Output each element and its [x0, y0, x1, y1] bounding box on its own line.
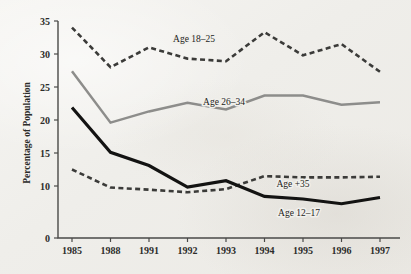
y-tick-label: 30: [40, 49, 50, 60]
x-tick-label: 1988: [101, 245, 121, 256]
y-tick-label: 15: [40, 148, 50, 159]
x-tick-label: 1995: [293, 245, 313, 256]
x-tick-label: 1993: [216, 245, 236, 256]
series-line-age-12-17: [72, 107, 380, 203]
x-tick-label: 1994: [255, 245, 275, 256]
series-label: Age 12–17: [278, 208, 320, 218]
series-line-age-18-25: [72, 28, 380, 72]
axis-lines: [58, 21, 400, 238]
y-axis-title-group: Percentage of Population: [22, 81, 32, 183]
y-axis-ticks: 0101520253035: [40, 16, 58, 244]
x-tick-label: 1991: [139, 245, 159, 256]
y-tick-label: 25: [40, 82, 50, 93]
y-tick-label: 35: [40, 16, 50, 27]
x-tick-label: 1985: [62, 245, 82, 256]
line-chart: Percentage of Population 0101520253035 1…: [0, 0, 411, 274]
x-tick-label: 1996: [332, 245, 352, 256]
y-axis-title: Percentage of Population: [22, 81, 32, 183]
x-tick-label: 1997: [370, 245, 390, 256]
series-label: Age 18–25: [173, 34, 215, 44]
x-tick-label: 1992: [178, 245, 198, 256]
y-tick-label: 20: [40, 115, 50, 126]
series-label: Age 26–34: [203, 97, 245, 107]
y-tick-label: 10: [40, 181, 50, 192]
series-label: Age +35: [276, 179, 309, 189]
series-lines: [72, 28, 380, 204]
y-tick-label: 0: [45, 233, 50, 244]
chart-page: Percentage of Population 0101520253035 1…: [0, 0, 411, 274]
x-axis-ticks: 198519881991199219931994199519961997: [62, 238, 390, 256]
